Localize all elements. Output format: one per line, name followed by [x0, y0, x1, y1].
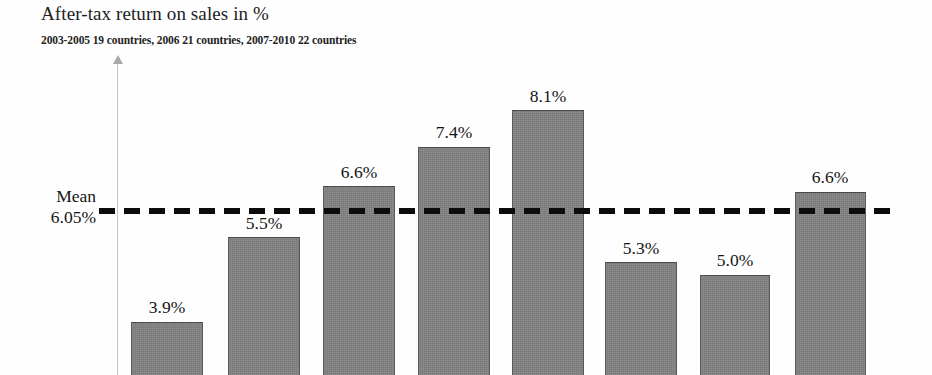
mean-value-text: 6.05% — [0, 207, 96, 228]
y-axis-arrow-icon — [113, 55, 123, 64]
bar-value-label: 5.3% — [596, 238, 686, 258]
bar[interactable] — [795, 192, 866, 375]
bar[interactable] — [418, 147, 490, 375]
bar-value-label: 5.5% — [219, 213, 309, 233]
bar[interactable] — [131, 322, 203, 375]
bar-value-label: 5.0% — [690, 250, 780, 270]
bar-value-label: 3.9% — [122, 297, 212, 317]
bar[interactable] — [700, 275, 770, 375]
bar[interactable] — [228, 237, 300, 375]
bar[interactable] — [512, 110, 584, 375]
bar-value-label: 7.4% — [409, 122, 499, 142]
chart-container: After-tax return on sales in % 2003-2005… — [0, 0, 932, 375]
bar[interactable] — [323, 186, 395, 375]
plot-area: 3.9%5.5%6.6%7.4%8.1%5.3%5.0%6.6% Mean 6.… — [0, 0, 932, 375]
y-axis-line — [117, 62, 118, 375]
bar[interactable] — [605, 262, 677, 375]
mean-label: Mean 6.05% — [0, 186, 96, 228]
mean-label-text: Mean — [0, 186, 96, 207]
bar-value-label: 6.6% — [785, 167, 875, 187]
mean-reference-line — [99, 208, 891, 214]
bar-value-label: 8.1% — [503, 86, 593, 106]
bar-value-label: 6.6% — [314, 162, 404, 182]
